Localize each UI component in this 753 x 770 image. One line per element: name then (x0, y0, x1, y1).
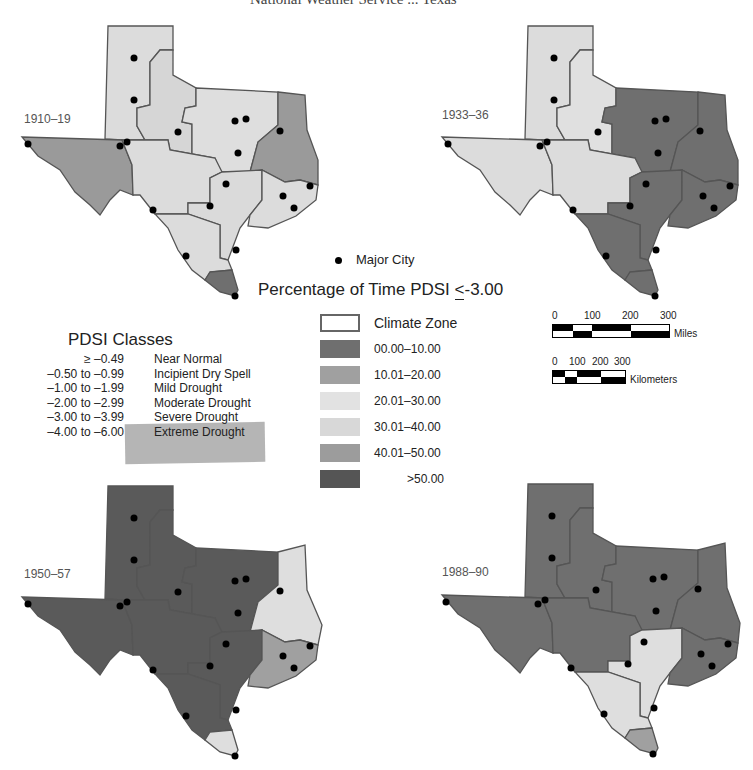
color-swatch (320, 392, 360, 410)
zone-lower-valley (205, 270, 238, 296)
pdsi-range: –0.50 to –0.99 (18, 367, 154, 382)
climate-zone-swatch (320, 314, 360, 332)
tick: 100 (584, 310, 601, 321)
legend-label: >50.00 (374, 472, 444, 486)
pdsi-title: PDSI Classes (68, 330, 251, 350)
pdsi-row: –0.50 to –0.99Incipient Dry Spell (18, 367, 251, 382)
pdsi-row: –2.00 to –2.99Moderate Drought (18, 396, 251, 411)
pdsi-label: Severe Drought (154, 410, 238, 425)
tick: 300 (614, 356, 631, 367)
pdsi-label: Extreme Drought (154, 425, 245, 440)
legend-row: 00.00–10.00 (320, 336, 494, 362)
pdsi-label: Mild Drought (154, 381, 222, 396)
scale-bar-kilometers: 0 100 200 300 Kilometers (552, 356, 652, 384)
period-label: 1988–90 (442, 565, 489, 579)
map-1950-57: 1950–57 (0, 475, 340, 770)
map-1988-90: 1988–90 (420, 475, 753, 770)
map-1910-19: 1910–19 (0, 0, 340, 300)
pdsi-range: ≥ –0.49 (18, 352, 154, 367)
legend-label: 40.01–50.00 (374, 446, 454, 460)
zone-lowervalley (625, 728, 658, 754)
tick: 0 (552, 356, 558, 367)
legend-label: Climate Zone (374, 315, 494, 331)
pdsi-range: –1.00 to –1.99 (18, 381, 154, 396)
period-label: 1950–57 (24, 567, 71, 581)
pdsi-range: –4.00 to –6.00 (18, 425, 154, 440)
zone-lowervalley (205, 730, 238, 756)
legend-row: Climate Zone (320, 310, 494, 336)
pdsi-classes-legend: PDSI Classes ≥ –0.49Near Normal –0.50 to… (18, 330, 251, 439)
pdsi-row: –4.00 to –6.00Extreme Drought (18, 425, 251, 440)
legend-row: 40.01–50.00 (320, 440, 494, 466)
unit-label: Kilometers (630, 374, 677, 385)
pdsi-range: –2.00 to –2.99 (18, 396, 154, 411)
color-swatch (320, 444, 360, 462)
zone-trans-pecos (22, 137, 133, 215)
legend-row: 10.01–20.00 (320, 362, 494, 388)
unit-label: Miles (674, 328, 697, 339)
pdsi-row: –3.00 to –3.99Severe Drought (18, 410, 251, 425)
tick: 0 (552, 310, 558, 321)
pdsi-label: Incipient Dry Spell (154, 367, 251, 382)
color-swatch (320, 418, 360, 436)
title-text: Percentage of Time PDSI (258, 280, 455, 299)
legend-label: 10.01–20.00 (374, 368, 454, 382)
map-1933-36: 1933–36 (420, 0, 753, 300)
major-city-legend: Major City (335, 252, 415, 267)
tick: 300 (660, 310, 677, 321)
pdsi-range: –3.00 to –3.99 (18, 410, 154, 425)
period-label: 1910–19 (24, 112, 71, 126)
legend-label: Major City (356, 252, 415, 267)
legend-row: >50.00 (320, 466, 494, 492)
color-swatch (320, 470, 360, 488)
tick: 100 (569, 356, 586, 367)
tick: 200 (622, 310, 639, 321)
percentage-title: Percentage of Time PDSI <-3.00 (258, 280, 503, 300)
color-swatch (320, 340, 360, 358)
period-label: 1933–36 (442, 108, 489, 122)
city-dot-icon (335, 257, 342, 264)
legend-row: 20.01–30.00 (320, 388, 494, 414)
zone-transpecos (22, 597, 133, 675)
pdsi-row: –1.00 to –1.99Mild Drought (18, 381, 251, 396)
pdsi-label: Near Normal (154, 352, 222, 367)
zone-transpecos (442, 137, 553, 215)
zone-lowervalley (625, 270, 658, 296)
scale-bar-miles: 0 100 200 300 Miles (552, 310, 682, 338)
legend-label: 30.01–40.00 (374, 420, 454, 434)
pdsi-row: ≥ –0.49Near Normal (18, 352, 251, 367)
percentage-legend: Climate Zone 00.00–10.00 10.01–20.00 20.… (320, 310, 494, 492)
color-swatch (320, 366, 360, 384)
pdsi-label: Moderate Drought (154, 396, 251, 411)
legend-row: 30.01–40.00 (320, 414, 494, 440)
tick: 200 (592, 356, 609, 367)
title-op: < (455, 280, 465, 300)
title-value: -3.00 (464, 280, 503, 299)
legend-label: 00.00–10.00 (374, 342, 454, 356)
legend-label: 20.01–30.00 (374, 394, 454, 408)
